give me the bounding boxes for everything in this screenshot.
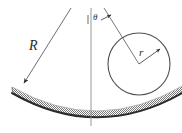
physics-diagram: R r θ xyxy=(0,0,182,133)
track-top-edge xyxy=(12,85,182,111)
label-radius-r: r xyxy=(139,47,143,58)
diagram-canvas xyxy=(0,0,182,133)
label-angle-theta: θ xyxy=(93,13,97,22)
label-radius-R: R xyxy=(29,39,38,53)
track-left-end-cap xyxy=(12,87,13,93)
